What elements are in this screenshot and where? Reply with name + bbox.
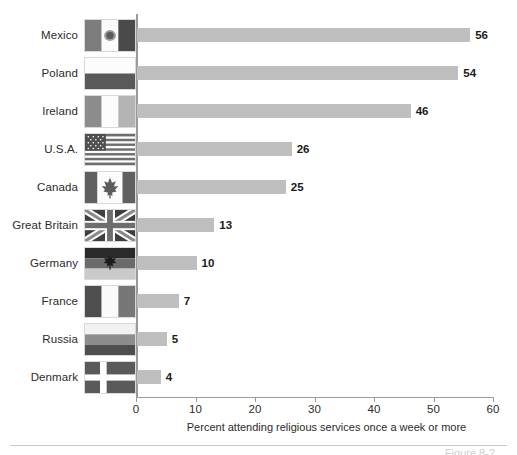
x-tick-label: 30 bbox=[308, 403, 321, 415]
country-label-russia: Russia bbox=[0, 320, 78, 358]
bar-row: Russia 5 bbox=[0, 320, 517, 358]
x-tick-label: 0 bbox=[133, 403, 139, 415]
country-label-germany: Germany bbox=[0, 244, 78, 282]
bar-value-label: 7 bbox=[184, 293, 190, 309]
bar-value-label: 25 bbox=[291, 179, 304, 195]
bar-row: Poland 54 bbox=[0, 54, 517, 92]
country-label-france: France bbox=[0, 282, 78, 320]
bar bbox=[137, 332, 167, 346]
x-tick-label: 20 bbox=[249, 403, 262, 415]
bar bbox=[137, 104, 411, 118]
poland-flag bbox=[84, 57, 136, 90]
bar-value-label: 4 bbox=[166, 369, 172, 385]
bar-value-label: 46 bbox=[416, 103, 429, 119]
figure-caption: Figure 8-2 bbox=[445, 447, 495, 455]
bar-row: U.S.A. 26 bbox=[0, 130, 517, 168]
bar-value-label: 54 bbox=[463, 65, 476, 81]
france-flag bbox=[84, 285, 136, 318]
x-tick bbox=[315, 397, 316, 402]
bar-value-label: 56 bbox=[475, 27, 488, 43]
ireland-flag bbox=[84, 95, 136, 128]
country-label-u-s-a: U.S.A. bbox=[0, 130, 78, 168]
bar bbox=[137, 370, 161, 384]
country-label-mexico: Mexico bbox=[0, 16, 78, 54]
x-tick bbox=[255, 397, 256, 402]
country-label-great-britain: Great Britain bbox=[0, 206, 78, 244]
canada-flag bbox=[84, 171, 136, 204]
bottom-divider bbox=[10, 445, 507, 446]
denmark-flag bbox=[84, 361, 136, 394]
x-tick-label: 50 bbox=[427, 403, 440, 415]
mexico-flag bbox=[84, 19, 136, 52]
bar bbox=[137, 28, 470, 42]
x-tick bbox=[434, 397, 435, 402]
bar bbox=[137, 256, 197, 270]
bar bbox=[137, 66, 458, 80]
bar-row: Germany 10 bbox=[0, 244, 517, 282]
x-tick bbox=[136, 397, 137, 402]
bar bbox=[137, 180, 286, 194]
x-tick-label: 10 bbox=[189, 403, 202, 415]
bar bbox=[137, 142, 292, 156]
bar-row: Ireland 46 bbox=[0, 92, 517, 130]
x-tick bbox=[493, 397, 494, 402]
russia-flag bbox=[84, 323, 136, 356]
bar-row: Canada 25 bbox=[0, 168, 517, 206]
bar-row: Denmark 4 bbox=[0, 358, 517, 396]
x-tick bbox=[374, 397, 375, 402]
germany-flag bbox=[84, 247, 136, 280]
x-tick bbox=[196, 397, 197, 402]
country-label-ireland: Ireland bbox=[0, 92, 78, 130]
bar bbox=[137, 218, 214, 232]
bar-value-label: 26 bbox=[297, 141, 310, 157]
bar-chart: Mexico 56Poland 54Ireland 46U.S.A. bbox=[0, 0, 517, 455]
bar-value-label: 5 bbox=[172, 331, 178, 347]
bar-row: France 7 bbox=[0, 282, 517, 320]
bar-row: Great Britain 13 bbox=[0, 206, 517, 244]
usa-flag bbox=[84, 133, 136, 166]
bar bbox=[137, 294, 179, 308]
bar-value-label: 13 bbox=[219, 217, 232, 233]
x-tick-label: 60 bbox=[487, 403, 500, 415]
x-axis-title: Percent attending religious services onc… bbox=[0, 421, 517, 433]
x-tick-label: 40 bbox=[368, 403, 381, 415]
great-britain-flag bbox=[84, 209, 136, 242]
bar-row: Mexico 56 bbox=[0, 16, 517, 54]
country-label-denmark: Denmark bbox=[0, 358, 78, 396]
country-label-poland: Poland bbox=[0, 54, 78, 92]
bar-value-label: 10 bbox=[202, 255, 215, 271]
country-label-canada: Canada bbox=[0, 168, 78, 206]
